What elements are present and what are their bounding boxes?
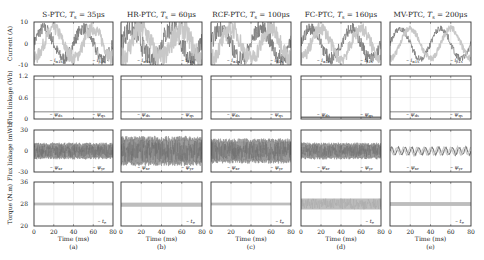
xtick-label: 0 <box>209 228 213 235</box>
ytick-label: -30 <box>18 168 28 175</box>
legend-ψ-xr: – ψxr <box>317 164 329 171</box>
xtick-label: 60 <box>89 228 97 235</box>
subplot-torque-a: – te <box>34 182 113 226</box>
legend-ψ-yr: – ψyr <box>270 164 282 171</box>
legend-ψ-yr: – ψyr <box>450 164 462 171</box>
xtick-label: 80 <box>467 228 475 235</box>
subplot-torque-c: – te <box>211 182 291 226</box>
xtick-label: 20 <box>137 228 145 235</box>
legend-ψ-xr: – ψxr <box>407 164 419 171</box>
xtick-label: 80 <box>377 228 385 235</box>
subplot-flux_mwb-a: – ψxr– ψyr <box>34 130 113 172</box>
ylabel-current: Current (A) <box>6 26 13 61</box>
legend-t-e: – te <box>366 218 375 225</box>
ylabel-flux_mwb: Flux linkage (mWb) <box>6 121 14 181</box>
trace-flux_mwb <box>121 136 202 166</box>
subplot-flux_mwb-b: – ψxr– ψyr <box>121 130 202 172</box>
xtick-label: 0 <box>119 228 123 235</box>
ytick-label: 1.2 <box>18 72 28 79</box>
trace-flux_mwb <box>34 143 113 160</box>
figure-canvas: S-PTC, Ts = 35μs– iα1s– iβ1s100-10Curren… <box>0 0 484 260</box>
subfigure-caption: (a) <box>69 243 78 250</box>
ytick-label: 0 <box>24 40 28 47</box>
subplot-flux_wb-a: – ψds– ψqs <box>34 76 113 119</box>
ytick-label: 10 <box>20 18 28 25</box>
panel-title: RCF-PTC, Ts = 100μs <box>212 10 290 20</box>
xtick-label: 60 <box>357 228 365 235</box>
subfigure-caption: (b) <box>157 243 166 250</box>
xtick-label: 40 <box>70 228 78 235</box>
column-b: HR-PTC, Ts = 60μs– iα1s– iβ1s– ψds– ψqs–… <box>119 10 206 250</box>
subplot-flux_wb-e: – ψds– ψqs <box>390 76 471 119</box>
panel-title: MV-PTC, Ts = 200μs <box>394 10 468 20</box>
xtick-label: 80 <box>198 228 206 235</box>
subplot-current-d: – iα1s– iβ1s <box>301 22 381 65</box>
subplot-flux_mwb-d: – ψxr– ψyr <box>301 130 381 172</box>
panel-title: FC-PTC, Ts = 160μs <box>305 10 378 20</box>
subfigure-caption: (c) <box>247 243 255 250</box>
subplot-torque-b: – te <box>121 182 202 226</box>
xtick-label: 60 <box>267 228 275 235</box>
xtick-label: 40 <box>337 228 345 235</box>
xtick-label: 60 <box>447 228 455 235</box>
ytick-label: 30 <box>20 126 28 133</box>
trace-torque <box>211 203 291 206</box>
subplot-flux_wb-d: – ψds– ψqs <box>301 76 381 119</box>
xtick-label: 40 <box>247 228 255 235</box>
legend-t-e: – te <box>455 218 464 225</box>
panel-title: HR-PTC, Ts = 60μs <box>127 10 196 20</box>
column-e: MV-PTC, Ts = 200μs– iα1s– iβ1s– ψds– ψqs… <box>388 10 475 250</box>
subfigure-caption: (d) <box>337 243 346 250</box>
subplot-torque-d: – te <box>301 182 381 226</box>
ytick-label: 36 <box>20 178 28 185</box>
subfigure-caption: (e) <box>426 243 435 250</box>
xtick-label: 40 <box>427 228 435 235</box>
trace-torque <box>121 203 202 207</box>
trace-torque <box>390 202 471 206</box>
subplot-current-b: – iα1s– iβ1s <box>121 22 202 65</box>
xlabel: Time (ms) <box>58 235 89 242</box>
subplot-current-e: – iα1s– iβ1s <box>390 22 471 65</box>
xtick-label: 20 <box>317 228 325 235</box>
xtick-label: 80 <box>287 228 295 235</box>
subplot-current-c: – iα1s– iβ1s <box>211 22 291 65</box>
xtick-label: 20 <box>50 228 58 235</box>
xtick-label: 40 <box>158 228 166 235</box>
column-c: RCF-PTC, Ts = 100μs– iα1s– iβ1s– ψds– ψq… <box>209 10 295 250</box>
xlabel: Time (ms) <box>325 235 356 242</box>
xtick-label: 0 <box>299 228 303 235</box>
subplot-current-a: – iα1s– iβ1s <box>34 22 113 65</box>
subplot-torque-e: – te <box>390 182 471 226</box>
ylabel-flux_wb: Flux linkage (Wb) <box>6 70 14 124</box>
legend-ψ-yr: – ψyr <box>360 164 372 171</box>
legend-ψ-xr: – ψxr <box>50 164 62 171</box>
ylabel-torque: Torque (N.m) <box>6 184 14 224</box>
xtick-label: 0 <box>388 228 392 235</box>
legend-t-e: – te <box>98 218 107 225</box>
xlabel: Time (ms) <box>146 235 177 242</box>
ytick-label: 0.6 <box>18 94 28 101</box>
legend-t-e: – te <box>186 218 195 225</box>
trace-torque <box>34 203 113 206</box>
xtick-label: 0 <box>32 228 36 235</box>
ytick-label: -10 <box>18 61 28 68</box>
xtick-label: 20 <box>227 228 235 235</box>
subplot-flux_mwb-e: – ψxr– ψyr <box>390 130 471 172</box>
ytick-label: 20 <box>20 222 28 229</box>
legend-t-e: – te <box>276 218 285 225</box>
subplot-flux_mwb-c: – ψxr– ψyr <box>211 130 291 172</box>
xtick-label: 20 <box>406 228 414 235</box>
ytick-label: 28 <box>20 200 28 207</box>
legend-i-α1s: – iα1s <box>227 57 240 64</box>
xtick-label: 60 <box>178 228 186 235</box>
legend-ψ-xr: – ψxr <box>138 164 150 171</box>
subplot-flux_wb-b: – ψds– ψqs <box>121 76 202 119</box>
trace-torque <box>301 199 381 210</box>
column-a: S-PTC, Ts = 35μs– iα1s– iβ1s100-10Curren… <box>6 10 117 250</box>
trace-flux_mwb <box>301 143 381 160</box>
xtick-label: 80 <box>109 228 117 235</box>
legend-ψ-yr: – ψyr <box>181 164 193 171</box>
column-d: FC-PTC, Ts = 160μs– iα1s– iβ1s– ψds– ψqs… <box>299 10 385 250</box>
ytick-label: 0 <box>24 115 28 122</box>
legend-ψ-xr: – ψxr <box>227 164 239 171</box>
